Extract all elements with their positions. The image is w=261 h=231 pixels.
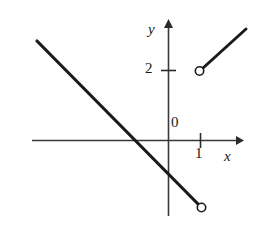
x-axis-arrowhead: [236, 136, 244, 145]
open-point-upper: [195, 67, 203, 75]
x-tick-label-1: 1: [195, 146, 203, 161]
piecewise-function-plot: [0, 0, 261, 231]
graph-figure: y x 0 1 2: [0, 0, 261, 231]
y-axis-arrowhead: [164, 19, 173, 28]
right-branch-line: [203, 29, 246, 68]
origin-label: 0: [171, 115, 179, 130]
open-point-lower: [197, 203, 205, 211]
x-axis: [32, 133, 244, 148]
x-axis-label: x: [224, 149, 231, 164]
left-branch-segment: [37, 41, 206, 212]
y-tick-label-2: 2: [145, 61, 153, 76]
y-axis-label: y: [148, 22, 155, 37]
right-branch-segment: [195, 29, 246, 75]
